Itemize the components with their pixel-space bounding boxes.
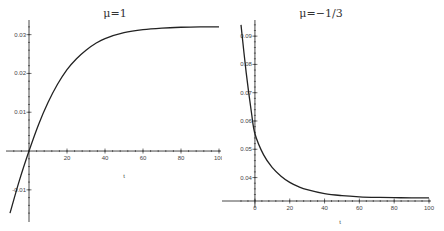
- x-tick-label: 40: [102, 155, 109, 161]
- y-tick-label: 0.07: [240, 90, 252, 96]
- data-curve: [241, 25, 429, 198]
- chart-mu-1: μ=120406080100-0.010.010.020.03t: [0, 0, 222, 231]
- y-tick-label: 0.04: [240, 175, 252, 181]
- x-tick-label: 0: [253, 205, 257, 211]
- data-curve: [10, 27, 219, 213]
- x-tick-label: 80: [178, 155, 185, 161]
- plot-mu-minus-third: μ=−1/30204060801000.040.050.060.070.080.…: [222, 0, 444, 231]
- x-tick-label: 20: [64, 155, 71, 161]
- y-tick-label: -0.01: [12, 187, 26, 193]
- x-tick-label: 60: [140, 155, 147, 161]
- x-tick-label: 100: [214, 155, 222, 161]
- y-tick-label: 0.01: [14, 109, 26, 115]
- chart-title: μ=−1/3: [299, 7, 342, 20]
- x-tick-label: 40: [321, 205, 328, 211]
- x-axis-label: t: [339, 219, 341, 225]
- y-tick-label: 0.02: [14, 70, 26, 76]
- x-tick-label: 60: [356, 205, 363, 211]
- y-tick-label: 0.06: [240, 118, 252, 124]
- x-tick-label: 20: [286, 205, 293, 211]
- y-tick-label: 0.08: [240, 61, 252, 67]
- chart-mu-minus-third: μ=−1/30204060801000.040.050.060.070.080.…: [222, 0, 444, 231]
- x-tick-label: 80: [391, 205, 398, 211]
- plot-mu-1: μ=120406080100-0.010.010.020.03t: [0, 0, 222, 231]
- chart-title: μ=1: [103, 7, 126, 20]
- y-tick-label: 0.05: [240, 146, 252, 152]
- x-tick-label: 100: [424, 205, 435, 211]
- x-axis-label: t: [123, 173, 125, 179]
- y-tick-label: 0.03: [14, 32, 26, 38]
